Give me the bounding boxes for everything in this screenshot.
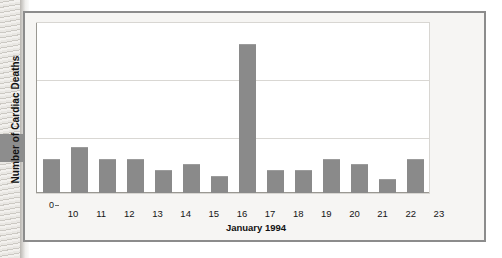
bar-slot [317,23,345,193]
x-tick-label: 22 [397,208,425,219]
bar [407,159,424,193]
x-tick-label: 17 [256,208,284,219]
y-axis-title-text: Number of Cardiac Deaths [10,55,21,183]
bar [155,170,172,193]
x-tick-label: 12 [115,208,143,219]
bar [323,159,340,193]
bar-slot [261,23,289,193]
plot-area [36,22,430,194]
bar [43,159,60,193]
bar [295,170,312,193]
x-tick-label: 13 [143,208,171,219]
bar-slot [205,23,233,193]
bar-slot [401,23,429,193]
bar-slot [149,23,177,193]
y-tick-mark-0 [55,205,59,206]
x-tick-label: 15 [200,208,228,219]
x-tick-label: 18 [284,208,312,219]
bar-slot [93,23,121,193]
bar-slot [373,23,401,193]
bar [239,44,256,193]
x-tick-label: 20 [340,208,368,219]
bar-slot [65,23,93,193]
x-tick-label: 14 [172,208,200,219]
y-axis-title: Number of Cardiac Deaths [8,33,22,205]
y-tick-label-0: 0 [36,200,54,210]
bar-slot [345,23,373,193]
bar-slot [233,23,261,193]
screenshot-root: Number of Cardiac Deaths 30 20 10 0 1011… [0,0,502,258]
x-tick-label: 11 [87,208,115,219]
x-axis-title: January 1994 [59,222,453,233]
x-tick-label: 23 [425,208,453,219]
bar-slot [177,23,205,193]
bar-series [37,23,429,193]
x-tick-label: 10 [59,208,87,219]
bar [351,164,368,193]
bar [267,170,284,193]
bar [99,159,116,193]
x-tick-label: 19 [312,208,340,219]
bar [71,147,88,193]
bar [379,179,396,193]
x-tick-labels: 1011121314151617181920212223 [59,208,453,219]
bar [127,159,144,193]
bar [211,176,228,193]
bar-slot [289,23,317,193]
bar [183,164,200,193]
bar-slot [121,23,149,193]
x-tick-label: 16 [228,208,256,219]
bar-slot [37,23,65,193]
x-tick-label: 21 [369,208,397,219]
